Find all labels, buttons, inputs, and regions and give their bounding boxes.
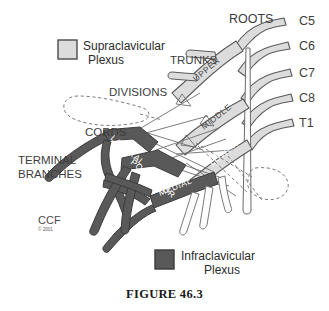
small-white-nerve-1 (180, 192, 199, 235)
divisions-callout-loop (64, 96, 149, 125)
division-line-1 (141, 93, 200, 128)
figure-caption: FIGURE 46.3 (0, 287, 329, 302)
right-dashed-loop (248, 168, 289, 200)
legend-supraclavicular[interactable]: Supraclavicular Plexus (58, 39, 165, 67)
legend-supraclavicular-label-line2: Plexus (88, 53, 124, 67)
credit-initials: CCF (38, 214, 61, 226)
figure-container: Supraclavicular Plexus Infraclavicular P… (0, 0, 329, 311)
legend-infraclavicular-swatch (155, 250, 174, 269)
legend-infraclavicular-label-line1: Infraclavicular (181, 249, 255, 263)
legend-supraclavicular-swatch (58, 40, 77, 59)
credit-copyright: © 2001 (38, 226, 53, 232)
root-label-c8: C8 (299, 91, 315, 105)
legend-infraclavicular[interactable]: Infraclavicular Plexus (155, 249, 255, 277)
section-label-terminal-branches-line1: TERMINAL (18, 154, 77, 166)
small-white-nerve-3 (218, 176, 232, 213)
section-label-roots: ROOTS (229, 12, 273, 26)
root-label-c5: C5 (299, 14, 315, 28)
section-label-divisions: DIVISIONS (109, 86, 167, 98)
brachial-plexus-diagram: Supraclavicular Plexus Infraclavicular P… (0, 0, 329, 311)
root-label-c7: C7 (299, 66, 315, 80)
section-label-terminal-branches-line2: BRANCHES (18, 168, 82, 180)
nerve-roots-group (234, 18, 294, 150)
legend-supraclavicular-label-line1: Supraclavicular (83, 39, 165, 53)
root-label-t1: T1 (299, 116, 314, 130)
root-label-c6: C6 (299, 39, 315, 53)
small-white-nerve-2 (200, 186, 213, 229)
legend-infraclavicular-label-line2: Plexus (204, 263, 240, 277)
